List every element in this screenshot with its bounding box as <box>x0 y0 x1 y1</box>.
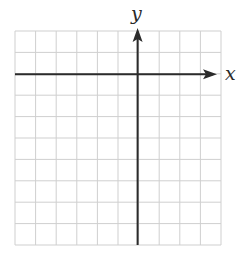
y-axis-label: y <box>130 2 142 24</box>
coordinate-plane: x y <box>0 0 240 254</box>
x-axis-label: x <box>225 62 236 84</box>
grid-lines <box>15 31 221 245</box>
